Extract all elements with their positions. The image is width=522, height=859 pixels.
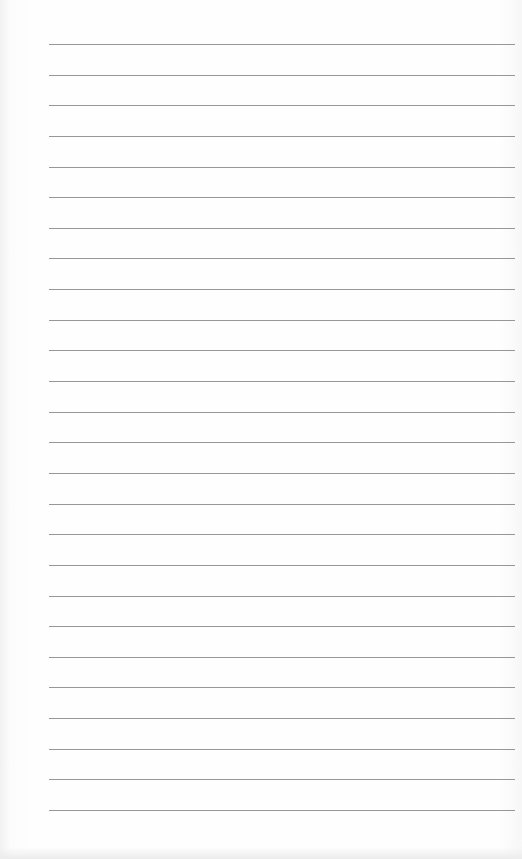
ruled-line [49, 105, 515, 106]
ruled-line [49, 442, 515, 443]
ruled-line [49, 228, 515, 229]
ruled-line [49, 412, 515, 413]
ruled-line [49, 197, 515, 198]
ruled-line [49, 350, 515, 351]
ruled-line [49, 258, 515, 259]
ruled-line [49, 718, 515, 719]
ruled-line [49, 136, 515, 137]
ruled-line [49, 381, 515, 382]
ruled-line [49, 289, 515, 290]
ruled-line [49, 44, 515, 45]
ruled-line [49, 749, 515, 750]
lined-paper-sheet [0, 0, 522, 859]
ruled-line [49, 565, 515, 566]
ruled-line [49, 167, 515, 168]
ruled-line [49, 626, 515, 627]
ruled-line [49, 810, 515, 811]
ruled-line [49, 657, 515, 658]
ruled-line [49, 596, 515, 597]
ruled-line [49, 473, 515, 474]
ruled-line [49, 534, 515, 535]
paper-bottom-edge [0, 847, 522, 859]
ruled-line [49, 687, 515, 688]
ruled-line [49, 320, 515, 321]
ruled-line [49, 779, 515, 780]
ruled-line [49, 504, 515, 505]
ruled-line [49, 75, 515, 76]
